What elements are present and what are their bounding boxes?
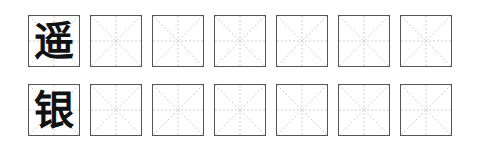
grid-guides: [339, 16, 389, 66]
practice-cell[interactable]: [400, 84, 452, 136]
practice-cell[interactable]: [90, 84, 142, 136]
grid-guides: [277, 85, 327, 135]
practice-cell[interactable]: [90, 15, 142, 67]
practice-cell[interactable]: [338, 15, 390, 67]
grid-guides: [91, 85, 141, 135]
grid-guides: [215, 85, 265, 135]
practice-cell[interactable]: [338, 84, 390, 136]
model-character: 遥: [29, 16, 79, 66]
grid-guides: [153, 16, 203, 66]
grid-guides: [215, 16, 265, 66]
practice-cell[interactable]: [276, 15, 328, 67]
practice-cell[interactable]: [276, 84, 328, 136]
grid-guides: [401, 16, 451, 66]
practice-row-1: 遥: [28, 15, 452, 68]
grid-guides: [91, 16, 141, 66]
practice-cell[interactable]: [214, 84, 266, 136]
grid-guides: [153, 85, 203, 135]
practice-cell[interactable]: [152, 15, 204, 67]
model-character-cell: 遥: [28, 15, 80, 67]
model-character: 银: [29, 85, 79, 135]
grid-guides: [401, 85, 451, 135]
model-character-cell: 银: [28, 84, 80, 136]
grid-guides: [277, 16, 327, 66]
practice-row-2: 银: [28, 84, 452, 137]
practice-cell[interactable]: [152, 84, 204, 136]
practice-cell[interactable]: [400, 15, 452, 67]
practice-cell[interactable]: [214, 15, 266, 67]
grid-guides: [339, 85, 389, 135]
